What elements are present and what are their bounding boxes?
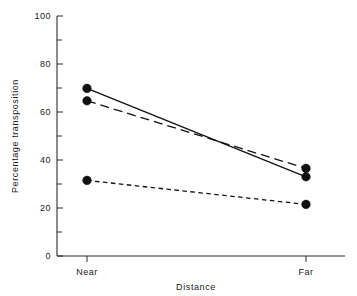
- x-tick-label-far: Far: [299, 267, 314, 277]
- y-tick-label-40: 40: [40, 155, 51, 165]
- y-tick-label-80: 80: [40, 59, 51, 69]
- x-axis-title: Distance: [176, 282, 216, 292]
- series-line-short-dash: [87, 180, 306, 204]
- data-point-shortdash-far: [302, 200, 311, 209]
- x-tick-label-near: Near: [76, 267, 98, 277]
- y-tick-label-20: 20: [40, 203, 51, 213]
- data-point-longdash-near: [83, 97, 92, 106]
- data-point-solid-far: [302, 173, 311, 182]
- data-point-longdash-far: [302, 164, 311, 173]
- series-line-long-dash: [87, 101, 306, 169]
- data-point-shortdash-near: [83, 176, 92, 185]
- chart-figure: 100 80 60 40 20 0 Near Far Distance Perc…: [0, 0, 357, 296]
- y-tick-label-60: 60: [40, 107, 51, 117]
- data-point-solid-near: [83, 84, 92, 93]
- y-tick-label-100: 100: [34, 11, 51, 21]
- y-tick-label-0: 0: [45, 251, 51, 261]
- series-line-solid: [87, 88, 306, 176]
- line-chart: 100 80 60 40 20 0 Near Far Distance Perc…: [0, 0, 357, 296]
- y-axis-title: Percentage transposition: [10, 79, 20, 193]
